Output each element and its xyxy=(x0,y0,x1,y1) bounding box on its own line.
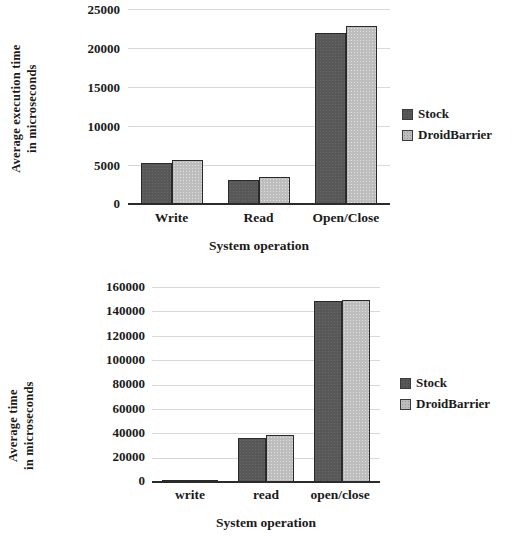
chart-panel-top: Average execution time in microseconds 2… xyxy=(0,0,525,265)
bar-droidbarrier xyxy=(259,177,290,204)
legend-item-droidbarrier: DroidBarrier xyxy=(402,127,492,143)
bar-droidbarrier xyxy=(190,480,218,482)
x-tick-label: Write xyxy=(128,210,215,226)
x-tick-label: open/close xyxy=(292,487,388,503)
bar-stock xyxy=(238,438,266,483)
bar-droidbarrier xyxy=(342,300,370,482)
legend-top: Stock DroidBarrier xyxy=(402,106,492,148)
y-tick-label: 5000 xyxy=(94,158,120,174)
chart-panel-bottom: Average time in microseconds 160000 1400… xyxy=(0,265,525,537)
y-axis-title-bottom-line2: in microseconds xyxy=(22,351,38,501)
bar-group xyxy=(302,9,389,204)
bar-group xyxy=(152,287,228,482)
y-tick-label: 20000 xyxy=(113,449,146,465)
bar-stock xyxy=(228,180,259,204)
x-tick-label: Open/Close xyxy=(296,210,396,226)
legend-item-droidbarrier: DroidBarrier xyxy=(400,396,490,412)
legend-item-stock: Stock xyxy=(402,106,492,122)
y-tick-label: 0 xyxy=(114,196,121,212)
legend-label-stock: Stock xyxy=(418,106,449,122)
y-tick-label: 15000 xyxy=(88,80,121,96)
bar-group xyxy=(304,287,380,482)
y-tick-label: 40000 xyxy=(113,425,146,441)
bar-group xyxy=(215,9,302,204)
bar-droidbarrier xyxy=(266,435,294,482)
bar-droidbarrier xyxy=(346,26,377,204)
y-tick-label: 60000 xyxy=(113,401,146,417)
y-tick-label: 120000 xyxy=(106,328,145,344)
y-tick-label: 160000 xyxy=(106,279,145,295)
y-tick-label: 100000 xyxy=(106,352,145,368)
bar-stock xyxy=(141,163,172,204)
x-tick-label: write xyxy=(152,487,228,503)
y-axis-title-top-line2: in microseconds xyxy=(25,24,41,194)
legend-label-droidbarrier: DroidBarrier xyxy=(418,127,492,143)
y-axis-title-bottom-line1: Average time xyxy=(6,351,22,501)
plot-area-bottom xyxy=(152,287,380,482)
legend-swatch-stock-icon xyxy=(400,378,411,389)
bar-stock xyxy=(162,480,190,482)
y-tick-label: 0 xyxy=(139,473,146,489)
legend-swatch-droidbarrier-icon xyxy=(402,130,413,141)
bar-stock xyxy=(315,33,346,204)
legend-item-stock: Stock xyxy=(400,375,490,391)
bar-group xyxy=(228,287,304,482)
y-axis-title-top: Average execution time in microseconds xyxy=(9,24,40,194)
legend-label-droidbarrier: DroidBarrier xyxy=(416,396,490,412)
y-axis-title-bottom: Average time in microseconds xyxy=(6,351,37,501)
bar-stock xyxy=(314,301,342,482)
y-tick-label: 140000 xyxy=(106,303,145,319)
x-axis-title-top: System operation xyxy=(128,238,390,254)
y-tick-label: 25000 xyxy=(88,2,121,18)
y-axis-ticks-bottom: 160000 140000 120000 100000 80000 60000 … xyxy=(45,265,145,495)
x-axis-title-bottom: System operation xyxy=(152,515,380,531)
y-tick-label: 20000 xyxy=(88,41,121,57)
x-tick-label: Read xyxy=(215,210,302,226)
legend-swatch-droidbarrier-icon xyxy=(400,399,411,410)
y-axis-title-top-line1: Average execution time xyxy=(9,24,25,194)
y-tick-label: 10000 xyxy=(88,119,121,135)
y-axis-ticks-top: 25000 20000 15000 10000 5000 0 xyxy=(55,0,120,215)
y-tick-label: 80000 xyxy=(113,376,146,392)
bar-group xyxy=(128,9,215,204)
legend-bottom: Stock DroidBarrier xyxy=(400,375,490,417)
plot-area-top xyxy=(128,9,390,204)
legend-label-stock: Stock xyxy=(416,375,447,391)
bar-droidbarrier xyxy=(172,160,203,204)
legend-swatch-stock-icon xyxy=(402,109,413,120)
